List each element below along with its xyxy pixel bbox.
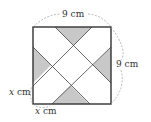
right-dimension-label: 9 cm <box>116 59 139 69</box>
left-x-label: x cm <box>9 87 31 97</box>
shaded-triangle-top <box>55 27 92 46</box>
bottom-x-label: x cm <box>35 106 57 116</box>
shaded-triangle-left <box>33 47 51 83</box>
top-dimension-label: 9 cm <box>62 9 85 19</box>
geometry-diagram: 9 cm 9 cm x cm x cm <box>0 0 151 122</box>
shaded-triangle-bottom <box>52 86 89 105</box>
shaded-triangle-right <box>93 47 111 83</box>
